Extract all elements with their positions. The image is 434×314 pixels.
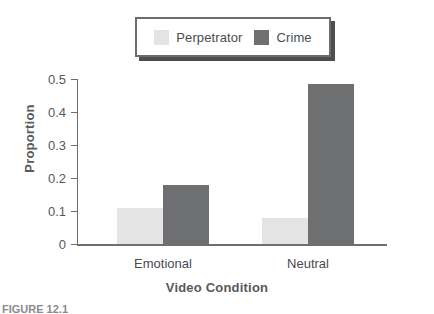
x-axis-label-emotional: Emotional — [134, 256, 192, 271]
y-axis-tick-label: 0 — [59, 237, 66, 252]
y-axis-tick-label: 0.1 — [48, 204, 66, 219]
y-axis-tick — [71, 145, 77, 146]
bar-neutral-perpetrator — [262, 218, 308, 244]
y-axis-tick — [71, 244, 77, 245]
y-axis-title: Proportion — [22, 93, 37, 185]
y-axis-tick-label: 0.2 — [48, 171, 66, 186]
bar-emotional-crime — [163, 185, 209, 244]
y-axis-tick — [71, 112, 77, 113]
y-axis-line — [77, 79, 78, 245]
y-axis-tick-label: 0.4 — [48, 105, 66, 120]
x-axis-line — [77, 244, 387, 246]
y-axis-tick — [71, 79, 77, 80]
x-axis-label-neutral: Neutral — [287, 256, 329, 271]
y-axis-tick — [71, 178, 77, 179]
x-axis-title: Video Condition — [0, 280, 434, 295]
bar-emotional-perpetrator — [117, 208, 163, 244]
y-axis-tick-label: 0.3 — [48, 138, 66, 153]
bar-neutral-crime — [308, 84, 354, 244]
figure-bar-chart: Perpetrator Crime 00.10.20.30.40.5 Emoti… — [0, 0, 434, 314]
y-axis-tick — [71, 211, 77, 212]
y-axis-tick-label: 0.5 — [48, 72, 66, 87]
plot-area: 00.10.20.30.40.5 EmotionalNeutral Propor… — [0, 0, 434, 314]
caption-fragment: FIGURE 12.1 — [2, 303, 68, 314]
